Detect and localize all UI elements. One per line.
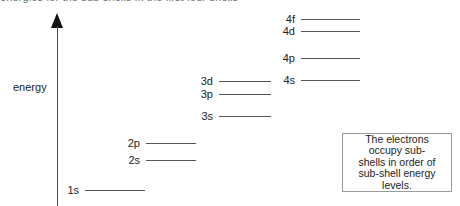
energy-level-bar (219, 94, 271, 95)
subshell-energy-diagram: energies for the sub-shells in the first… (0, 0, 460, 206)
energy-level-bar (301, 80, 360, 81)
energy-axis-label: energy (13, 81, 47, 94)
energy-level-label: 4s (279, 73, 295, 87)
energy-level-1s: 1s (63, 183, 145, 197)
energy-level-bar (85, 190, 145, 191)
energy-level-4d: 4d (279, 24, 360, 38)
energy-level-label: 4d (279, 24, 295, 38)
diagram-title-clipped: energies for the sub-shells in the first… (0, 0, 460, 5)
diagram-title-text: energies for the sub-shells in the first… (0, 0, 460, 4)
energy-level-2p: 2p (126, 136, 196, 150)
energy-level-bar (301, 58, 360, 59)
energy-level-label: 2s (126, 153, 140, 167)
energy-level-4s: 4s (279, 73, 360, 87)
caption-box: The electrons occupy sub- shells in orde… (342, 133, 452, 192)
energy-level-label: 1s (63, 183, 79, 197)
caption-line: occupy sub- (369, 145, 426, 157)
energy-level-3d: 3d (194, 74, 271, 88)
energy-level-bar (301, 31, 360, 32)
energy-level-bar (219, 81, 271, 82)
energy-level-label: 3p (194, 87, 213, 101)
energy-level-label: 2p (126, 136, 140, 150)
energy-axis-line (57, 26, 58, 206)
energy-level-bar (301, 19, 360, 20)
energy-level-2s: 2s (126, 153, 196, 167)
energy-level-3p: 3p (194, 87, 271, 101)
energy-level-label: 4p (279, 51, 295, 65)
energy-level-bar (146, 160, 196, 161)
energy-level-3s: 3s (194, 109, 271, 123)
caption-line: levels. (382, 180, 412, 192)
energy-level-bar (146, 143, 196, 144)
energy-level-label: 3s (194, 109, 213, 123)
energy-level-4p: 4p (279, 51, 360, 65)
energy-level-bar (219, 116, 271, 117)
energy-level-label: 3d (194, 74, 213, 88)
